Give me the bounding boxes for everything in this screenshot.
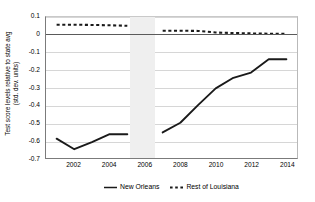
y-axis-title: Test score levels relative to state avg … <box>0 0 22 168</box>
x-axis-tick-labels: 2002200420062008201020122014 <box>45 161 298 173</box>
y-axis-tick-label: 0 <box>36 31 40 38</box>
series-line-new-orleans <box>57 134 128 149</box>
dotted-line-icon <box>170 184 183 191</box>
y-axis-title-line-2: (std. dev. units) <box>11 32 19 136</box>
y-axis-title-line-1: Test score levels relative to state avg <box>3 32 11 136</box>
y-axis-tick-label: -0.7 <box>29 156 40 163</box>
y-axis-tick-label: -0.2 <box>29 66 40 73</box>
zero-reference-line <box>46 34 297 35</box>
legend-label: Rest of Louisiana <box>186 183 239 191</box>
y-axis-tick-label: -0.3 <box>29 84 40 91</box>
y-axis-tick-label: -0.4 <box>29 102 40 109</box>
x-axis-tick-label: 2004 <box>102 161 117 169</box>
chart-legend: New OrleansRest of Louisiana <box>45 180 298 194</box>
plot-area <box>45 16 298 159</box>
legend-entry-rest-of-louisiana[interactable]: Rest of Louisiana <box>170 183 239 191</box>
y-axis-tick-label: -0.5 <box>29 120 40 127</box>
x-axis-tick-label: 2002 <box>66 161 81 169</box>
series-layer <box>46 17 297 158</box>
y-axis-tick-label: -0.6 <box>29 138 40 145</box>
legend-label: New Orleans <box>120 183 159 191</box>
chart-container: Test score levels relative to state avg … <box>0 0 315 202</box>
solid-line-icon <box>104 184 117 191</box>
y-axis-tick-label: 0.1 <box>31 13 40 20</box>
x-axis-tick-label: 2014 <box>280 161 295 169</box>
legend-entry-new-orleans[interactable]: New Orleans <box>104 183 159 191</box>
y-axis-tick-label: -0.1 <box>29 48 40 55</box>
y-axis-tick-labels: 0.10-0.1-0.2-0.3-0.4-0.5-0.6-0.7 <box>20 16 42 159</box>
series-line-rest-of-louisiana <box>57 25 128 26</box>
series-line-new-orleans <box>163 59 287 132</box>
x-axis-tick-label: 2008 <box>173 161 188 169</box>
x-axis-tick-label: 2012 <box>244 161 259 169</box>
x-axis-tick-label: 2006 <box>137 161 152 169</box>
x-axis-tick-label: 2010 <box>209 161 224 169</box>
